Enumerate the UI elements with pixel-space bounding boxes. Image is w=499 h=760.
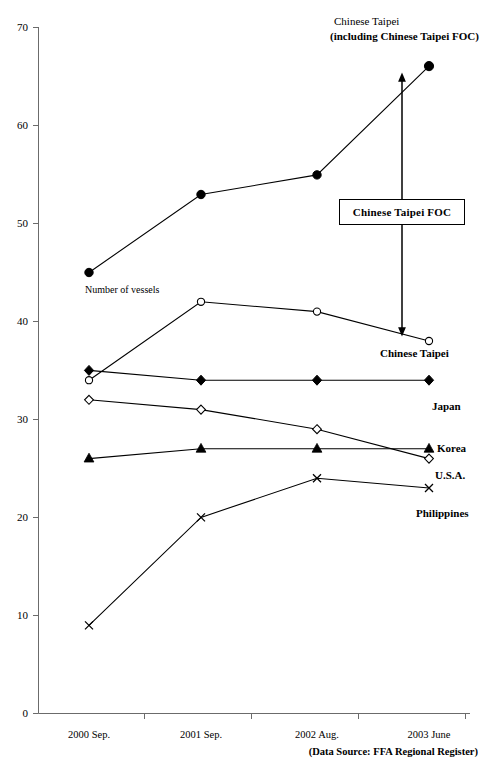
y-tick-label: 20 <box>4 512 28 523</box>
series-markers-chinese-taipei <box>85 298 432 384</box>
chart-header-line-1: Chinese Taipei <box>334 16 399 27</box>
series-line-chinese-taipei <box>89 302 429 380</box>
y-tick-label: 0 <box>4 708 28 719</box>
series-line-philippines <box>89 478 429 625</box>
series-label-korea: Korea <box>437 443 466 454</box>
series-label-philippines: Philippines <box>416 508 469 519</box>
y-tick-label: 50 <box>4 218 28 229</box>
chart-figure: 70 60 50 40 30 20 10 0 2000 Sep. 2001 Se… <box>0 0 499 760</box>
y-tick-label: 30 <box>4 414 28 425</box>
x-tick-label: 2002 Aug. <box>267 730 367 741</box>
series-label-japan: Japan <box>432 401 461 412</box>
series-label-usa: U.S.A. <box>435 470 465 481</box>
axis-note-number-of-vessels: Number of vessels <box>85 285 159 295</box>
series-markers-japan <box>84 365 433 385</box>
y-tick-label: 70 <box>4 22 28 33</box>
series-markers-chinese-taipei-incl-foc <box>85 62 434 277</box>
chart-header-line-2: (including Chinese Taipei FOC) <box>330 31 479 42</box>
chart-plot-area <box>0 0 499 760</box>
x-tick-label: 2000 Sep. <box>39 730 139 741</box>
x-axis-ticks <box>145 714 466 720</box>
series-markers-usa <box>85 395 434 463</box>
series-line-chinese-taipei-incl-foc <box>89 66 429 272</box>
foc-callout-box: Chinese Taipei FOC <box>339 199 465 225</box>
series-line-usa <box>89 400 429 459</box>
y-axis-ticks <box>33 28 39 714</box>
series-label-chinese-taipei: Chinese Taipei <box>380 348 449 359</box>
y-tick-label: 60 <box>4 120 28 131</box>
x-tick-label: 2003 June <box>379 730 479 741</box>
y-tick-label: 40 <box>4 316 28 327</box>
x-tick-label: 2001 Sep. <box>151 730 251 741</box>
source-note: (Data Source: FFA Regional Register) <box>0 747 478 760</box>
y-tick-label: 10 <box>4 610 28 621</box>
series-line-japan <box>89 370 429 380</box>
series-line-korea <box>89 449 429 459</box>
